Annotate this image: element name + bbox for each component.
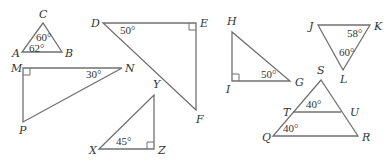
- vertex-label-m: M: [10, 62, 23, 75]
- triangle-mnp: MNP30°: [10, 62, 135, 137]
- vertex-label-f: F: [195, 113, 204, 126]
- triangle-ghi: HIG50°: [225, 15, 304, 96]
- angle-label: 40°: [306, 98, 321, 110]
- vertex-label-z: Z: [157, 144, 166, 157]
- triangle-qrs: SQRTU40°40°: [262, 64, 370, 144]
- vertex-label-n: N: [124, 62, 135, 75]
- right-angle-marker: [232, 74, 239, 81]
- vertex-label-j: J: [307, 20, 314, 33]
- right-angle-marker: [189, 23, 196, 30]
- triangle-abc: ABC60°62°: [11, 8, 73, 60]
- vertex-label-g: G: [295, 76, 304, 89]
- vertex-label-e: E: [199, 17, 208, 30]
- angle-label: 30°: [86, 68, 101, 80]
- triangle-outline: [23, 68, 122, 122]
- vertex-label-r: R: [361, 131, 370, 144]
- angle-label: 45°: [116, 135, 131, 147]
- vertex-label-d: D: [90, 17, 100, 30]
- vertex-label-h: H: [226, 15, 237, 28]
- vertex-label-a: A: [11, 47, 20, 60]
- vertex-label-k: K: [373, 20, 383, 33]
- vertex-label-p: P: [18, 124, 27, 137]
- triangle-xyz: XYZ45°: [88, 78, 166, 157]
- vertex-label-c: C: [39, 8, 48, 21]
- vertex-label-t: T: [283, 106, 292, 119]
- angle-label: 50°: [120, 24, 135, 36]
- vertex-label-i: I: [225, 83, 231, 96]
- vertex-label-y: Y: [153, 78, 162, 91]
- vertex-label-x: X: [88, 144, 98, 157]
- triangles-diagram: ABC60°62°DEF50°HIG50°JKL58°60°MNP30°XYZ4…: [0, 0, 392, 163]
- vertex-label-b: B: [64, 47, 73, 60]
- triangle-def: DEF50°: [90, 17, 208, 126]
- vertex-label-l: L: [339, 73, 347, 86]
- vertex-label-q: Q: [262, 131, 271, 144]
- angle-label: 58°: [347, 27, 362, 39]
- angle-label: 60°: [339, 46, 354, 58]
- angle-label: 62°: [29, 42, 44, 54]
- vertex-label-s: S: [317, 64, 325, 77]
- triangle-outline: [103, 23, 196, 110]
- angle-label: 40°: [283, 122, 298, 134]
- vertex-label-u: U: [350, 106, 360, 119]
- angle-label: 50°: [261, 68, 276, 80]
- right-angle-marker: [23, 68, 30, 75]
- right-angle-marker: [147, 142, 154, 149]
